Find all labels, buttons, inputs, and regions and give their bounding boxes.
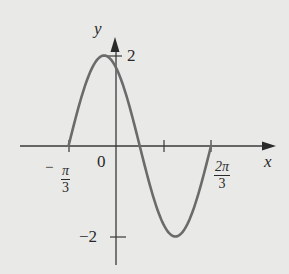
y-axis-arrow-icon: [111, 37, 120, 52]
origin-label: 0: [97, 153, 106, 170]
x-axis-label: x: [264, 153, 272, 170]
neg-sign: −: [45, 160, 53, 175]
y-tick-label-2: 2: [127, 47, 136, 64]
fraction-denominator: 3: [219, 176, 226, 191]
x-tick-label-2pi-3: 2π 3: [214, 160, 230, 191]
fraction-numerator: π: [61, 164, 70, 180]
y-tick-label-neg-2: −2: [79, 228, 97, 245]
fraction-denominator: 3: [62, 180, 69, 195]
x-axis-arrow-icon: [262, 142, 276, 151]
y-axis-label: y: [94, 20, 102, 37]
graph-canvas: [0, 0, 289, 274]
fraction-numerator: 2π: [214, 160, 230, 176]
x-tick-label-neg-pi-3: π 3: [61, 164, 70, 195]
